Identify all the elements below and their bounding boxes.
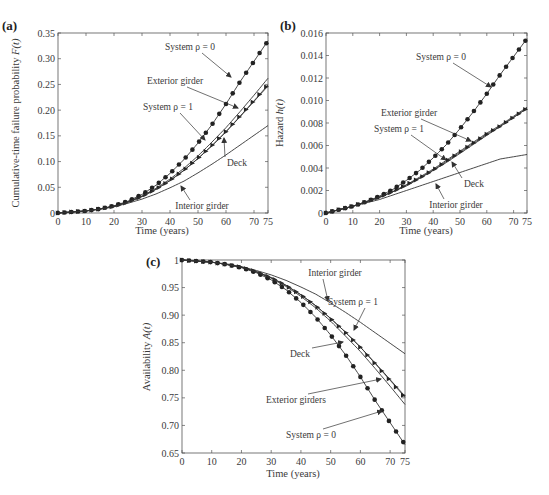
y-tick-label: 0.25 [38,79,56,90]
circle-marker [183,155,188,160]
circle-marker [301,303,306,308]
panel-a-ylabel: Cumulative-time failure probability F(t) [10,38,22,207]
plot-frame [58,33,268,213]
annotation-arrow [421,119,471,141]
annotation-label: System ρ = 0 [165,42,215,52]
panel-c: (c) 010203040506070750.650.700.750.800.8… [141,254,410,480]
y-tick-label: 0.012 [301,73,324,84]
circle-marker [251,61,256,66]
y-tick-label: 0.80 [162,365,180,376]
y-tick-label: 0.15 [38,130,56,141]
y-tick-label: 0.20 [38,105,56,116]
y-tick-label: 0.010 [301,95,324,106]
annotation-label: System ρ = 0 [416,52,466,62]
panel-c-ylabel: Availability A(t) [141,322,153,391]
panel-b-plot: 0102030405060707500.0020.0040.0060.0080.… [301,28,533,228]
x-tick-label: 30 [266,456,276,467]
x-tick-label: 60 [355,456,365,467]
y-tick-label: 0 [318,208,323,219]
circle-marker [504,64,509,69]
circle-marker [459,125,464,130]
y-tick-label: 1 [174,255,179,266]
circle-marker [491,82,496,87]
circle-marker [210,121,215,126]
y-tick-label: 0.75 [162,392,180,403]
circle-marker [177,162,182,167]
circle-marker [510,56,515,61]
y-tick-label: 0.70 [162,420,180,431]
annotation-label: System ρ = 1 [374,124,424,134]
circle-marker [401,180,406,185]
y-tick-label: 0.30 [38,53,56,64]
x-tick-label: 20 [109,216,119,227]
circle-marker [330,334,335,339]
circle-marker [230,91,235,96]
x-tick-label: 70 [249,216,259,227]
annotation-label: Exterior girder [381,108,438,118]
annotation-label: Exterior girders [266,395,326,405]
x-tick-label: 10 [348,216,358,227]
y-tick-label: 0.014 [301,50,324,61]
circle-marker [517,47,522,52]
y-tick-label: 0 [50,208,55,219]
circle-marker [380,408,385,413]
circle-marker [478,100,483,105]
circle-marker [372,397,377,402]
circle-marker [244,71,249,76]
circle-marker [294,296,299,301]
x-tick-label: 0 [56,216,61,227]
y-tick-label: 0.002 [301,185,324,196]
circle-marker [427,160,432,165]
x-tick-label: 70 [509,216,519,227]
panel-c-label: (c) [146,254,160,269]
x-tick-label: 60 [482,216,492,227]
y-tick-label: 0.35 [38,28,56,39]
circle-marker [446,140,451,145]
annotation-label: Deck [464,179,484,189]
annotation-label: Deck [290,349,310,359]
x-tick-label: 70 [385,456,395,467]
circle-marker [190,147,195,152]
circle-marker [163,175,168,180]
annotation-label: Deck [227,158,247,168]
circle-marker [237,80,242,85]
y-tick-label: 0.05 [38,182,56,193]
panel-c-plot: 010203040506070750.650.700.750.800.850.9… [162,255,411,468]
annotation-arrow [452,162,462,178]
circle-marker [315,317,320,322]
x-tick-label: 40 [296,456,306,467]
series-line [326,39,527,213]
x-tick-label: 0 [180,456,185,467]
y-tick-label: 0.006 [301,140,324,151]
annotation-arrow [181,186,190,200]
series-line [58,41,268,213]
circle-marker [204,130,209,135]
annotation-arrow [202,53,231,77]
circle-marker [170,169,175,174]
x-tick-label: 10 [81,216,91,227]
x-tick-label: 10 [207,456,217,467]
circle-marker [401,440,406,445]
circle-marker [157,181,162,186]
y-tick-label: 0.95 [162,282,180,293]
annotation-arrow [180,113,205,140]
annotation-arrow [323,411,382,429]
circle-marker [485,91,490,96]
panel-b-xlabel: Time (years) [399,225,453,237]
x-tick-label: 0 [324,216,329,227]
series-line [58,78,268,213]
circle-marker [351,364,356,369]
circle-marker [420,165,425,170]
y-tick-label: 0.004 [301,163,324,174]
x-tick-label: 75 [522,216,532,227]
circle-marker [497,73,502,78]
circle-marker [308,310,313,315]
circle-marker [264,41,269,46]
annotation-label: Interior girder [429,200,483,210]
panel-b: (b) 0102030405060707500.0020.0040.0060.0… [274,18,532,237]
annotation-arrow [436,184,444,199]
circle-marker [394,429,399,434]
circle-marker [337,344,342,349]
circle-marker [407,176,412,181]
y-tick-label: 0.65 [162,448,180,459]
